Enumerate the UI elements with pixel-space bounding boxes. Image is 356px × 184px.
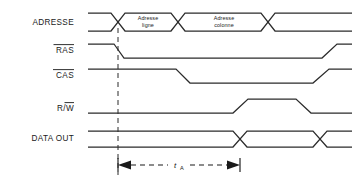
timing-diagram-canvas: ADRESSE Adresse ligne Adresse colonne RA… xyxy=(0,0,356,184)
data-out-bus-lower xyxy=(88,131,352,147)
signal-row-adresse: ADRESSE Adresse ligne Adresse colonne xyxy=(32,13,352,31)
signal-row-data-out: DATA OUT xyxy=(31,131,352,147)
adresse-ligne-label-line2: ligne xyxy=(142,22,154,28)
data-out-bus-upper xyxy=(88,131,352,147)
timing-diagram-root: ADRESSE Adresse ligne Adresse colonne RA… xyxy=(0,0,356,184)
signal-label-adresse: ADRESSE xyxy=(32,18,74,27)
adresse-colonne-label-line2: colonne xyxy=(214,22,234,28)
measure-arrow-left xyxy=(118,161,131,170)
signal-label-cas: CAS xyxy=(56,71,74,80)
ras-waveform xyxy=(88,44,352,58)
signal-label-data-out: DATA OUT xyxy=(31,134,74,143)
access-time-symbol: t xyxy=(174,161,177,170)
cas-waveform xyxy=(88,69,352,83)
measure-arrow-right xyxy=(227,161,240,170)
adresse-colonne-label-line1: Adresse xyxy=(214,15,234,21)
signal-row-cas: CAS xyxy=(53,69,352,83)
rw-waveform xyxy=(88,99,352,113)
adresse-ligne-label-line1: Adresse xyxy=(138,15,158,21)
signal-row-rw: R/W xyxy=(57,99,352,113)
signal-label-rw: R/W xyxy=(57,104,74,113)
measurement-access-time: t A xyxy=(118,158,240,172)
signal-label-ras: RAS xyxy=(56,46,74,55)
signal-row-ras: RAS xyxy=(54,44,353,58)
access-time-subscript: A xyxy=(180,165,184,171)
